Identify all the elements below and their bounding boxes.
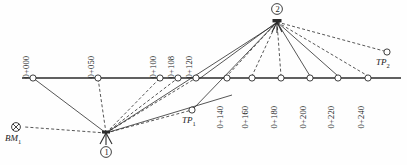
- station-label-0+160: 0+160: [241, 106, 250, 129]
- station-label-0+180: 0+180: [270, 106, 279, 129]
- station-node-0+120: [193, 75, 199, 81]
- sight-line-setup2-to-0+140: [227, 22, 277, 76]
- benchmark-symbol-bm1: [12, 123, 21, 132]
- station-label-0+108: 0+108: [167, 56, 176, 79]
- sight-line-setup2-to-0+180: [277, 22, 281, 76]
- instrument-marker-setup-1: [100, 131, 112, 146]
- sight-line-setup2-to-0+120: [199, 22, 277, 79]
- station-node-0+000: [30, 75, 36, 81]
- instrument-setup-number-1: 1: [103, 148, 110, 157]
- diagram-vector-layer: [0, 0, 407, 165]
- sight-line-setup1-to-0+108: [106, 78, 178, 133]
- tp1-text: TP: [182, 115, 193, 125]
- station-node-0+050: [95, 75, 101, 81]
- turning-point-label-tp2: TP2: [376, 58, 390, 69]
- bm1-text: BM: [5, 133, 18, 143]
- turning-point-node-tp2: [384, 49, 390, 55]
- sight-line-setup2-to-0+240: [277, 22, 368, 76]
- station-label-0+120: 0+120: [185, 56, 194, 79]
- sight-line-setup1-to-bm1: [25, 127, 106, 133]
- turning-point-label-tp1: TP1: [182, 116, 196, 127]
- station-node-0+200: [307, 75, 313, 81]
- sight-lines-setup-2: [194, 22, 384, 108]
- station-label-0+140: 0+140: [216, 106, 225, 129]
- sight-line-setup1-to-tp1: [106, 110, 192, 133]
- tp1-subscript: 1: [193, 120, 196, 127]
- station-node-0+100: [157, 75, 163, 81]
- survey-diagram-canvas: 0+000 0+050 0+100 0+108 0+120 0+140 0+16…: [0, 0, 407, 165]
- station-node-0+180: [278, 75, 284, 81]
- benchmark-label-bm1: BM1: [5, 134, 21, 145]
- station-label-0+220: 0+220: [327, 106, 336, 129]
- station-label-0+050: 0+050: [87, 56, 96, 79]
- sight-line-setup1-to-0+000: [33, 78, 106, 133]
- sight-line-setup1-to-0+050: [98, 78, 106, 133]
- turning-point-node-tp1: [189, 107, 195, 113]
- tp2-text: TP: [376, 57, 387, 67]
- station-label-0+100: 0+100: [149, 56, 158, 79]
- bm1-subscript: 1: [18, 138, 21, 145]
- station-node-0+160: [249, 75, 255, 81]
- instrument-setup-number-2: 2: [274, 5, 281, 14]
- station-node-0+108: [175, 75, 181, 81]
- tp2-subscript: 2: [387, 62, 390, 69]
- station-label-0+000: 0+000: [22, 56, 31, 79]
- sight-line-setup2-to-0+200: [277, 22, 310, 76]
- station-node-0+240: [365, 75, 371, 81]
- station-label-0+200: 0+200: [299, 106, 308, 129]
- station-node-0+220: [335, 75, 341, 81]
- station-node-0+140: [224, 75, 230, 81]
- station-label-0+240: 0+240: [357, 106, 366, 129]
